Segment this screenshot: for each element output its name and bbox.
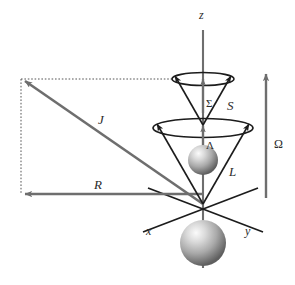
figure-background bbox=[0, 0, 295, 285]
diagram-canvas: z x y J R L S Ω Σ Λ bbox=[0, 0, 295, 285]
axis-x-label: x bbox=[145, 224, 152, 238]
axis-y-label: y bbox=[244, 224, 251, 238]
axis-z-label: z bbox=[198, 8, 204, 22]
lower-atom-sphere bbox=[180, 220, 226, 266]
vector-L-label: L bbox=[228, 164, 236, 179]
projection-Sigma-label: Σ bbox=[206, 97, 212, 109]
vector-S-label: S bbox=[227, 98, 234, 113]
projection-Omega-label: Ω bbox=[274, 137, 283, 151]
vector-diagram-figure: z x y J R L S Ω Σ Λ bbox=[0, 0, 295, 285]
projection-Lambda-label: Λ bbox=[206, 139, 214, 151]
vector-R-label: R bbox=[93, 177, 102, 192]
